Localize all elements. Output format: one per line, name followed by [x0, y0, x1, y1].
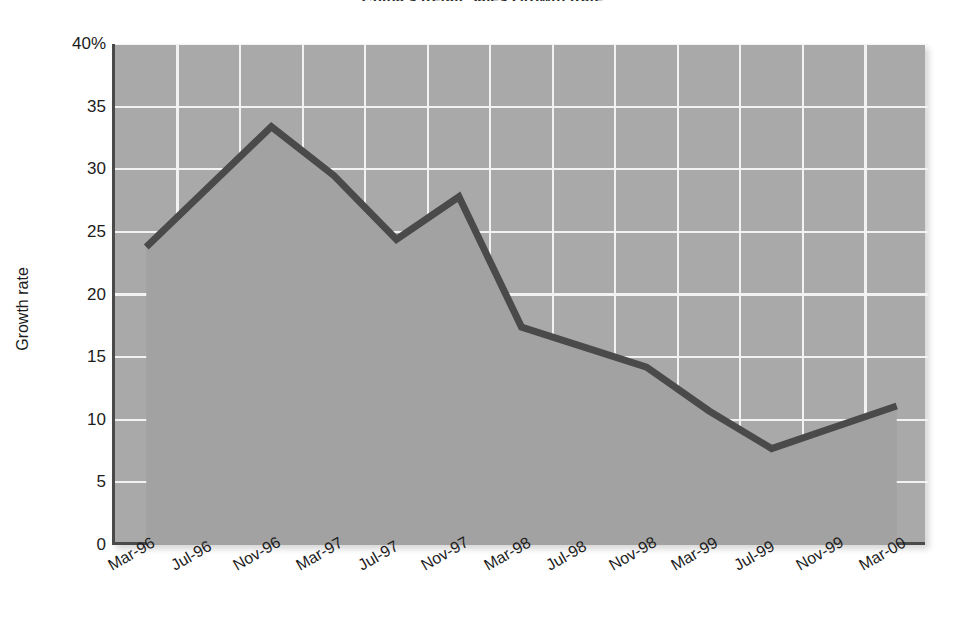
x-axis-ticks: Mar-96Jul-96Nov-96Mar-97Jul-97Nov-97Mar-… — [0, 545, 965, 641]
chart-title: China's Retail Sales Growth Rate — [0, 0, 965, 1]
y-axis-tick-label: 5 — [36, 472, 106, 492]
y-axis-tick-label: 30 — [36, 159, 106, 179]
y-axis-tick-label: 40% — [36, 34, 106, 54]
y-axis-tick-label: 20 — [36, 285, 106, 305]
chart-plot-svg — [115, 44, 928, 545]
chart-container: China's Retail Sales Growth Rate 0510152… — [0, 0, 965, 641]
y-axis-tick-label: 25 — [36, 222, 106, 242]
y-axis-tick-label: 35 — [36, 97, 106, 117]
plot-area — [112, 44, 925, 545]
area-fill — [146, 127, 896, 545]
y-axis-label: Growth rate — [14, 224, 32, 394]
y-axis-tick-label: 10 — [36, 410, 106, 430]
y-axis-tick-label: 15 — [36, 347, 106, 367]
